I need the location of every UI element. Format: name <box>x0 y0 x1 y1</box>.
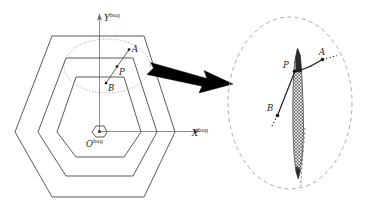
detail-point-a-dot <box>321 58 325 62</box>
figure-canvas <box>0 0 366 210</box>
curve-p-to-b <box>278 73 295 116</box>
detail-point-p-label: P <box>283 61 289 70</box>
detail-point-p-dot <box>293 70 297 74</box>
wall-sliver-region <box>293 49 304 179</box>
curve-b-continuation-dotted <box>272 116 278 128</box>
hexagon-outer-2 <box>38 58 157 176</box>
figure-root: Ybug Xbug Obug A P B A P B <box>0 0 366 210</box>
point-a-dot <box>128 48 131 51</box>
nested-hexagons <box>15 36 175 197</box>
detail-point-b-dot <box>276 114 280 118</box>
point-a-label: A <box>132 45 138 54</box>
origin-label: Obug <box>86 139 103 148</box>
point-b-dot <box>105 82 108 85</box>
hexagon-outer-1 <box>15 36 175 197</box>
detail-curve-pb <box>272 73 295 128</box>
apb-chord-left <box>105 48 131 84</box>
magnify-arrow-shape <box>147 63 233 94</box>
point-p-dot <box>116 65 119 68</box>
point-b-label: B <box>108 84 114 93</box>
detail-point-a-label: A <box>319 48 325 57</box>
detail-boundary-ellipse <box>228 17 352 189</box>
point-p-label: P <box>119 68 125 77</box>
x-axis-label: Xbug <box>192 128 208 137</box>
y-axis-label: Ybug <box>104 13 120 22</box>
detail-point-b-label: B <box>267 104 273 113</box>
